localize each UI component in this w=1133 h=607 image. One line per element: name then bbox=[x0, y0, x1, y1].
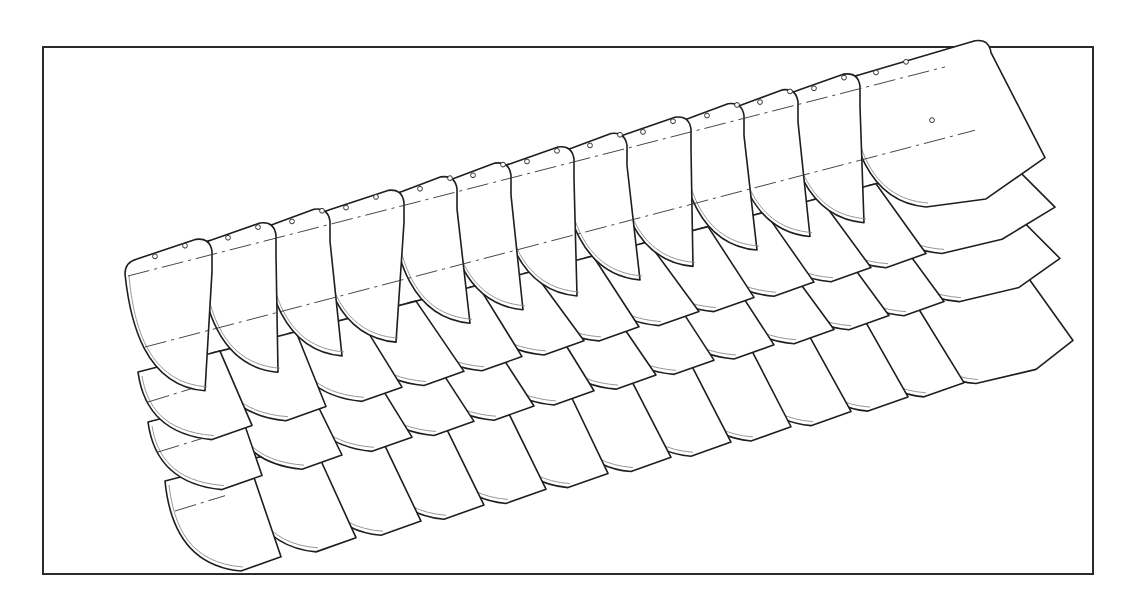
mounting-hole-icon bbox=[153, 254, 158, 259]
mounting-hole-icon bbox=[904, 59, 909, 64]
mounting-hole-icon bbox=[812, 86, 817, 91]
mounting-hole-icon bbox=[758, 100, 763, 105]
mounting-hole-icon bbox=[344, 205, 349, 210]
mounting-hole-icon bbox=[226, 235, 231, 240]
shingle-rows bbox=[125, 40, 1073, 571]
mounting-hole-icon bbox=[588, 143, 593, 148]
mounting-hole-icon bbox=[471, 173, 476, 178]
mounting-hole-icon bbox=[501, 162, 506, 167]
shingle-tile bbox=[125, 239, 212, 391]
side-hole-icon bbox=[930, 118, 935, 123]
mounting-hole-icon bbox=[735, 103, 740, 108]
mounting-hole-icon bbox=[256, 225, 261, 230]
mounting-hole-icon bbox=[874, 70, 879, 75]
mounting-hole-icon bbox=[290, 219, 295, 224]
mounting-hole-icon bbox=[448, 176, 453, 181]
mounting-hole-icon bbox=[418, 186, 423, 191]
mounting-hole-icon bbox=[525, 159, 530, 164]
mounting-hole-icon bbox=[320, 208, 325, 213]
mounting-hole-icon bbox=[671, 119, 676, 124]
mounting-hole-icon bbox=[842, 75, 847, 80]
mounting-hole-icon bbox=[641, 130, 646, 135]
mounting-hole-icon bbox=[555, 148, 560, 153]
mounting-hole-icon bbox=[183, 243, 188, 248]
mounting-hole-icon bbox=[705, 113, 710, 118]
shingle-panel-drawing bbox=[0, 0, 1133, 607]
mounting-hole-icon bbox=[788, 89, 793, 94]
mounting-hole-icon bbox=[374, 195, 379, 200]
mounting-hole-icon bbox=[618, 132, 623, 137]
